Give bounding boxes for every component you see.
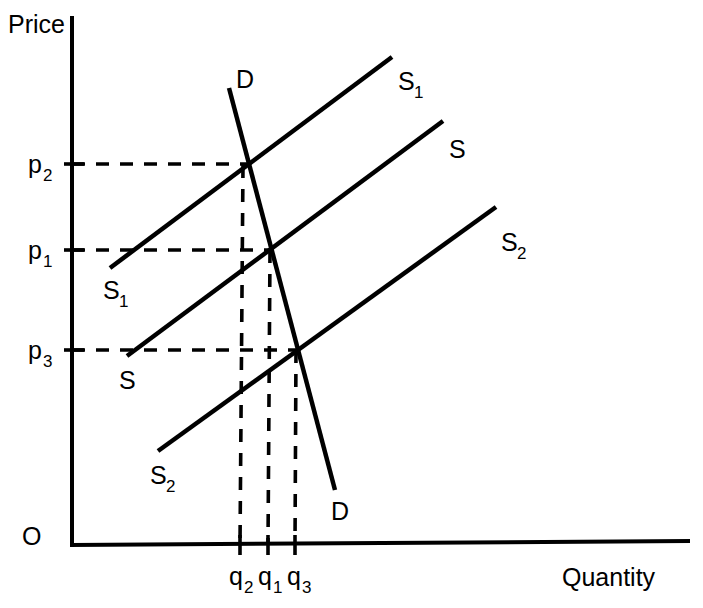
quantity-label-q3: q bbox=[287, 562, 301, 590]
y-axis-title: Price bbox=[8, 10, 65, 38]
chart-canvas: Price Quantity O p 2 p 1 p 3 q 2 q 1 q 3 bbox=[0, 0, 703, 608]
curve-label-supply-2-upper: S bbox=[501, 228, 518, 256]
quantity-label-q1-subscript: 1 bbox=[273, 578, 282, 597]
curve-supply-2 bbox=[158, 207, 496, 451]
guide-line-q2-vertical bbox=[240, 165, 243, 545]
supply-demand-diagram: Price Quantity O p 2 p 1 p 3 q 2 q 1 q 3 bbox=[0, 0, 703, 608]
guide-line-q3-vertical bbox=[295, 350, 296, 545]
curve-label-demand-top: D bbox=[236, 65, 254, 93]
price-label-p3: p bbox=[28, 336, 42, 364]
curve-label-supply-1-upper-subscript: 1 bbox=[414, 83, 423, 102]
guide-line-q1-vertical bbox=[268, 250, 270, 545]
quantity-label-q2-subscript: 2 bbox=[244, 578, 253, 597]
x-axis-title: Quantity bbox=[562, 563, 656, 591]
price-label-p2-subscript: 2 bbox=[43, 166, 52, 185]
curve-supply bbox=[127, 121, 443, 356]
price-label-p1: p bbox=[28, 236, 42, 264]
curve-label-supply-1-lower: S bbox=[103, 276, 120, 304]
curve-label-demand-bottom: D bbox=[331, 497, 349, 525]
quantity-label-q2: q bbox=[229, 562, 243, 590]
origin-label: O bbox=[22, 522, 41, 550]
quantity-label-q3-subscript: 3 bbox=[302, 578, 311, 597]
quantity-label-q1: q bbox=[258, 562, 272, 590]
price-label-p2: p bbox=[28, 150, 42, 178]
curve-label-supply-lower: S bbox=[119, 366, 136, 394]
curve-demand bbox=[229, 88, 335, 490]
curve-label-supply-2-upper-subscript: 2 bbox=[517, 244, 526, 263]
curve-label-supply-2-lower: S bbox=[150, 461, 167, 489]
curve-label-supply-1-upper: S bbox=[398, 67, 415, 95]
curve-label-supply-1-lower-subscript: 1 bbox=[119, 292, 128, 311]
curve-label-supply-upper: S bbox=[449, 135, 466, 163]
curve-label-supply-2-lower-subscript: 2 bbox=[166, 477, 175, 496]
x-axis-line bbox=[72, 541, 688, 545]
price-label-p3-subscript: 3 bbox=[43, 352, 52, 371]
price-label-p1-subscript: 1 bbox=[43, 252, 52, 271]
